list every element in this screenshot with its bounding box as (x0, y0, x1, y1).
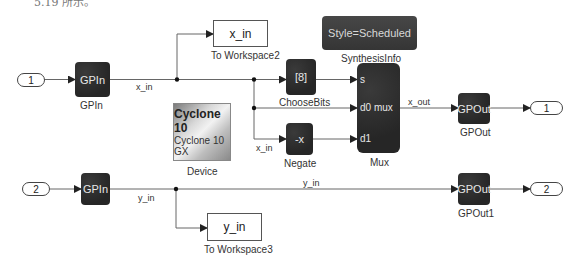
device-name: Device (187, 166, 218, 177)
inport-1-label: 1 (28, 75, 34, 86)
choose-bits-block[interactable]: [8] (286, 59, 316, 95)
to-workspace2-name: To Workspace2 (211, 50, 280, 61)
gpout-bottom-block[interactable]: GPOut (458, 173, 490, 205)
outport-2[interactable]: 2 (530, 182, 563, 196)
gpin-bottom-block[interactable]: GPIn (81, 173, 110, 205)
negate-text: -x (295, 133, 304, 145)
mux-port-d1: d1 (360, 133, 371, 144)
to-workspace2-block[interactable]: x_in (213, 20, 268, 47)
gpin-bottom-text: GPIn (83, 183, 108, 195)
to-workspace3-name: To Workspace3 (204, 244, 273, 255)
signal-label-x-in-negate: x_in (256, 143, 273, 153)
gpout-top-block[interactable]: GPOut (458, 93, 490, 124)
signal-label-y-in-long: y_in (303, 178, 320, 188)
device-family: Cyclone 10 (174, 107, 230, 135)
gpin-top-name: GPIn (80, 100, 103, 111)
simulink-canvas: 5.19 所示。 (0, 0, 576, 265)
to-workspace2-var: x_in (229, 27, 251, 41)
mux-block[interactable]: s d0 mux d1 (357, 63, 400, 153)
gpout-bottom-name: GPOut1 (458, 208, 494, 219)
inport-2[interactable]: 2 (22, 182, 50, 196)
device-block[interactable]: Cyclone 10 Cyclone 10 GX (173, 103, 231, 161)
gpin-top-text: GPIn (80, 74, 105, 86)
mux-port-d0: d0 mux (360, 102, 393, 113)
to-workspace3-var: y_in (223, 220, 245, 234)
outport-1-label: 1 (544, 103, 550, 114)
negate-name: Negate (284, 158, 316, 169)
gpout-top-name: GPOut (460, 127, 491, 138)
gpout-top-text: GPOut (457, 103, 491, 115)
negate-block[interactable]: -x (286, 123, 313, 155)
signal-label-x-out: x_out (408, 97, 430, 107)
signal-label-y-in: y_in (138, 193, 155, 203)
choose-bits-text: [8] (295, 71, 307, 83)
outport-2-label: 2 (544, 184, 550, 195)
synthesis-info-block[interactable]: Style=Scheduled (322, 16, 417, 50)
mux-name: Mux (370, 157, 389, 168)
signal-label-x-in: x_in (136, 82, 153, 92)
to-workspace3-block[interactable]: y_in (207, 213, 262, 241)
synthesis-info-text: Style=Scheduled (328, 27, 411, 39)
choose-bits-name: ChooseBits (279, 97, 330, 108)
inport-1[interactable]: 1 (17, 73, 45, 87)
inport-2-label: 2 (33, 184, 39, 195)
outport-1[interactable]: 1 (530, 101, 563, 115)
device-model: Cyclone 10 GX (174, 135, 230, 157)
mux-port-s: s (360, 74, 365, 85)
gpout-bottom-text: GPOut (457, 183, 491, 195)
gpin-top-block[interactable]: GPIn (75, 62, 110, 97)
